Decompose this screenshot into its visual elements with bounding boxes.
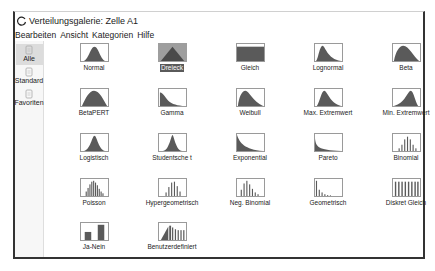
max-extreme-distribution-icon: [314, 88, 343, 107]
gamma-distribution-icon: [158, 88, 187, 107]
sidebar-item-label: Favoriten: [14, 99, 43, 107]
uniform-distribution-icon: [236, 43, 265, 62]
sidebar-item-label: Alle: [23, 55, 35, 63]
hypergeometric-distribution-icon: [158, 178, 187, 197]
tile-gleich[interactable]: Gleich: [211, 43, 289, 72]
betapert-distribution-icon: [80, 88, 109, 107]
title-bar: Verteilungsgalerie: Zelle A1: [15, 12, 423, 29]
triangle-distribution-icon: [158, 43, 187, 62]
tile-betapert[interactable]: BetaPERT: [55, 88, 133, 117]
poisson-distribution-icon: [80, 178, 109, 197]
tile-diskret-gleich[interactable]: Diskret Gleich: [367, 178, 435, 207]
tile-benutzerdefiniert[interactable]: Benutzerdefiniert: [133, 222, 211, 251]
tile-ja-nein[interactable]: Ja-Nein: [55, 222, 133, 251]
tile-studentsche-t[interactable]: Studentsche t: [133, 133, 211, 162]
tile-gamma[interactable]: Gamma: [133, 88, 211, 117]
tile-neg-binomial[interactable]: Neg. Binomial: [211, 178, 289, 207]
page-icon: [24, 45, 34, 55]
tile-hypergeometrisch[interactable]: Hypergeometrisch: [133, 178, 211, 207]
tile-pareto[interactable]: Pareto: [289, 133, 367, 162]
tile-max-extremwert[interactable]: Max. Extremwert: [289, 88, 367, 117]
menu-bar: Bearbeiten Ansicht Kategorien Hilfe: [13, 29, 423, 41]
discrete-uniform-distribution-icon: [392, 178, 421, 197]
window-title: Verteilungsgalerie: Zelle A1: [29, 16, 138, 26]
sidebar-item-alle[interactable]: Alle: [16, 44, 43, 65]
normal-distribution-icon: [80, 43, 109, 62]
distribution-gallery-window: Verteilungsgalerie: Zelle A1 Bearbeiten …: [13, 11, 425, 259]
distribution-grid: Normal Dreieck Gleich Lognormal: [44, 41, 423, 257]
negative-binomial-distribution-icon: [236, 178, 265, 197]
page-icon: [24, 89, 34, 99]
pareto-distribution-icon: [314, 133, 343, 152]
tile-poisson[interactable]: Poisson: [55, 178, 133, 207]
tile-normal[interactable]: Normal: [55, 43, 133, 72]
exponential-distribution-icon: [236, 133, 265, 152]
sidebar-item-label: Standard: [15, 77, 43, 85]
page-icon: [24, 67, 34, 77]
lognormal-distribution-icon: [314, 43, 343, 62]
sidebar-item-standard[interactable]: Standard: [16, 66, 43, 87]
sidebar-item-favoriten[interactable]: Favoriten: [16, 88, 43, 109]
menu-hilfe[interactable]: Hilfe: [135, 30, 156, 40]
custom-distribution-icon: [158, 222, 187, 241]
tile-weibull[interactable]: Weibull: [211, 88, 289, 117]
menu-kategorien[interactable]: Kategorien: [90, 30, 135, 40]
beta-distribution-icon: [392, 43, 421, 62]
tile-min-extremwert[interactable]: Min. Extremwert: [367, 88, 435, 117]
circle-arrow-icon: [17, 16, 27, 26]
weibull-distribution-icon: [236, 88, 265, 107]
student-t-distribution-icon: [158, 133, 187, 152]
logistic-distribution-icon: [80, 133, 109, 152]
tile-exponential[interactable]: Exponential: [211, 133, 289, 162]
category-sidebar: Alle Standard Favoriten: [15, 41, 44, 257]
menu-ansicht[interactable]: Ansicht: [58, 30, 90, 40]
menu-bearbeiten[interactable]: Bearbeiten: [13, 30, 58, 40]
tile-logistisch[interactable]: Logistisch: [55, 133, 133, 162]
tile-beta[interactable]: Beta: [367, 43, 435, 72]
geometric-distribution-icon: [314, 178, 343, 197]
min-extreme-distribution-icon: [392, 88, 421, 107]
yes-no-distribution-icon: [80, 222, 109, 241]
tile-geometrisch[interactable]: Geometrisch: [289, 178, 367, 207]
tile-dreieck[interactable]: Dreieck: [133, 43, 211, 72]
tile-binomial[interactable]: Binomial: [367, 133, 435, 162]
tile-lognormal[interactable]: Lognormal: [289, 43, 367, 72]
binomial-distribution-icon: [392, 133, 421, 152]
